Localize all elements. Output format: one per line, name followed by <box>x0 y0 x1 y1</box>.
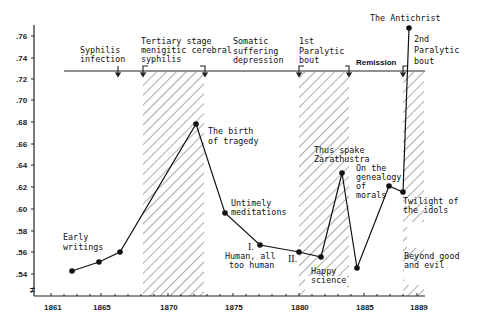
x-tick-label: 1880 <box>291 303 309 312</box>
shaded-periods <box>143 72 424 296</box>
y-axis: .76 .74 .72 .70 .68 .66 .64 .62 .60 .58 … <box>16 25 35 296</box>
data-point <box>339 170 345 176</box>
x-axis: 1861 1865 1870 1875 1880 1885 1889 <box>34 293 428 312</box>
label-remission: Remission <box>356 58 397 67</box>
annotation-untimely-meditations: meditations <box>231 207 286 217</box>
data-point <box>193 121 199 127</box>
data-point <box>318 254 324 260</box>
data-point <box>257 242 263 248</box>
y-tick-label: .64 <box>16 161 28 170</box>
label-1st-paralytic-bout: bout <box>299 55 319 65</box>
y-tick-label: .72 <box>16 75 28 84</box>
y-tick-label: .54 <box>16 270 28 279</box>
y-tick-label: .74 <box>16 54 28 63</box>
annotation-birth-of-tragedy: The birth <box>208 126 253 136</box>
nietzsche-chart: .76 .74 .72 .70 .68 .66 .64 .62 .60 .58 … <box>0 0 477 322</box>
annotation-birth-of-tragedy: of tragedy <box>208 136 258 146</box>
data-point <box>386 183 392 189</box>
x-tick-label: 1861 <box>44 303 62 312</box>
y-tick-label: .70 <box>16 96 28 105</box>
y-tick-label: .76 <box>16 32 28 41</box>
label-2nd-paralytic-bout: 2nd <box>414 34 429 44</box>
annotation-early-writings: writings <box>63 242 103 252</box>
annotation-beyond-good-and-evil: and evil <box>404 260 444 270</box>
y-tick-label: .58 <box>16 227 28 236</box>
y-tick-label: .60 <box>16 205 28 214</box>
data-point <box>354 265 360 271</box>
shaded-period-tertiary <box>143 72 204 296</box>
x-tick-label: 1865 <box>93 303 111 312</box>
work-annotations: Early writings The birth of tragedy Unti… <box>63 126 459 285</box>
annotation-happy-science: science <box>311 275 346 285</box>
x-tick-label: 1885 <box>356 303 374 312</box>
annotation-human-all-too-human: too human <box>229 260 274 270</box>
timeline <box>64 66 425 77</box>
y-tick-label: .66 <box>16 140 28 149</box>
label-antichrist: The Antichrist <box>370 13 441 23</box>
data-point <box>400 189 406 195</box>
axis-break-icon: ≠ <box>30 285 35 295</box>
label-somatic: Somatic <box>233 36 268 46</box>
label-tertiary: syphilis <box>141 54 181 64</box>
annotation-genealogy-of-morals: morals <box>356 190 386 200</box>
data-point <box>406 25 412 31</box>
y-tick-label: .62 <box>16 183 28 192</box>
data-point <box>222 210 228 216</box>
x-tick-label: 1875 <box>225 303 243 312</box>
data-point <box>96 259 102 265</box>
label-2nd-paralytic-bout: bout <box>414 56 434 66</box>
x-tick-label: 1889 <box>410 303 428 312</box>
shaded-period-1st-bout <box>299 72 349 296</box>
x-tick-label: 1870 <box>160 303 178 312</box>
label-syphilis-infection: infection <box>80 54 125 64</box>
data-point <box>69 268 75 274</box>
y-tick-label: .56 <box>16 248 28 257</box>
annotation-roman-ii: II. <box>288 253 297 264</box>
y-tick-label: .68 <box>16 118 28 127</box>
label-somatic: depression <box>233 55 283 65</box>
data-point <box>117 249 123 255</box>
label-1st-paralytic-bout: 1st <box>299 36 314 46</box>
annotation-early-writings: Early <box>63 232 88 242</box>
annotation-twilight-of-the-idols: the idols <box>403 205 448 215</box>
label-2nd-paralytic-bout: Paralytic <box>414 45 459 55</box>
timeline-labels: Syphilis infection Tertiary stage menigi… <box>80 13 459 67</box>
